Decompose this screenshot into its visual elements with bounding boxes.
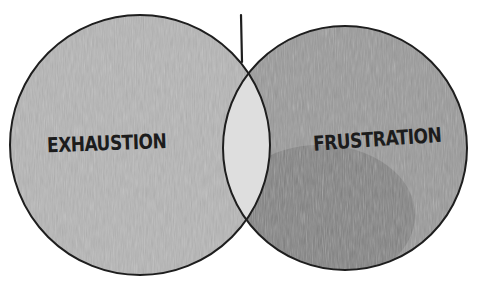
label-exhaustion: EXHAUSTION xyxy=(47,129,167,157)
top-stem-line xyxy=(241,15,242,62)
